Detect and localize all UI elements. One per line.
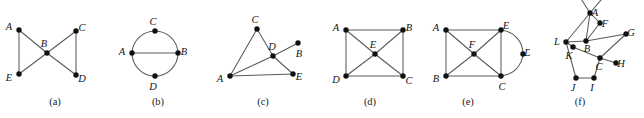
edge-D-B (47, 53, 76, 75)
vertex-c (152, 28, 157, 33)
vertex-a (443, 27, 448, 32)
edge-D-E (346, 54, 375, 76)
vertex-label-l: L (553, 36, 560, 47)
vertex-d (343, 73, 348, 78)
edge-C-B (155, 31, 178, 53)
edge-C-B (47, 31, 76, 53)
vertex-f (471, 51, 476, 56)
vertex-a (227, 73, 232, 78)
panel-b-vertices: ABCD (118, 16, 188, 92)
vertex-label-d: D (267, 41, 276, 52)
vertex-label-b: B (296, 48, 303, 59)
panel-b-caption: (b) (144, 96, 172, 107)
vertex-c (498, 73, 503, 78)
edge-E-B (19, 53, 47, 74)
edge-A-E (230, 74, 293, 76)
edge-C-F (474, 54, 501, 76)
panel-e-edges (446, 30, 523, 76)
panel-c-edges (230, 29, 298, 76)
vertex-a (343, 27, 348, 32)
vertex-label-c: C (149, 16, 157, 27)
edge-B-F (446, 54, 474, 76)
vertex-label-b: B (181, 46, 188, 57)
vertex-label-c: C (405, 75, 413, 86)
vertex-label-g: G (627, 27, 635, 38)
edge-A-D (230, 56, 273, 76)
vertex-e (16, 71, 21, 76)
edge-A-C (230, 29, 257, 76)
vertex-label-c: C (498, 81, 506, 92)
vertex-label-k: K (564, 50, 573, 61)
vertex-label-d: D (148, 81, 157, 92)
graph-figure-row: ABCDE(a)ABCD(b)ABCDE(c)ABCDE(d)ABCDEF(e)… (0, 0, 644, 118)
vertex-label-e: E (369, 39, 377, 50)
vertex-label-f: F (601, 18, 609, 29)
vertex-label-a: A (5, 21, 13, 32)
vertex-label-d: D (331, 74, 340, 85)
vertex-label-b: B (41, 38, 48, 49)
vertex-label-a: A (591, 7, 599, 18)
panel-c-caption: (c) (249, 96, 277, 107)
panel-f-vertices: AFGLBKCHJI (553, 7, 635, 93)
edge-B-E (375, 30, 403, 54)
vertex-label-a: A (216, 73, 224, 84)
vertex-label-d: D (523, 47, 530, 58)
panel-b-edges (132, 31, 178, 76)
edge-D-B (273, 43, 298, 56)
vertex-label-j: J (571, 82, 577, 93)
edge-C-E (375, 54, 403, 76)
vertex-label-e: E (295, 71, 303, 82)
vertex-label-f: F (468, 39, 476, 50)
edge-E-F (474, 30, 501, 54)
vertex-label-c: C (595, 61, 603, 72)
vertex-label-a: A (332, 22, 340, 33)
vertex-e (372, 51, 377, 56)
panel-e-caption: (e) (454, 96, 482, 107)
vertex-label-b: B (584, 43, 591, 54)
vertex-label-c: C (251, 14, 259, 25)
edge-D-E (273, 56, 293, 74)
vertex-label-e: E (502, 20, 510, 31)
vertex-label-a: A (432, 22, 440, 33)
vertex-label-b: B (406, 22, 413, 33)
panel-f-caption: (f) (566, 96, 594, 107)
vertex-c (254, 26, 259, 31)
vertex-d (152, 73, 157, 78)
vertex-k (570, 44, 575, 49)
vertex-b (295, 40, 300, 45)
vertex-label-e: E (5, 72, 13, 83)
vertex-b (44, 50, 49, 55)
vertex-c (597, 55, 602, 60)
vertex-label-d: D (77, 73, 86, 84)
edge-B-D (155, 53, 178, 76)
edge-A-C (132, 31, 155, 53)
vertex-d (270, 53, 275, 58)
vertex-label-i: I (589, 82, 594, 93)
vertex-label-b: B (433, 73, 440, 84)
vertex-label-a: A (118, 46, 126, 57)
vertex-i (591, 75, 596, 80)
panel-d-caption: (d) (356, 96, 384, 107)
vertex-label-c: C (78, 22, 86, 33)
vertex-l (563, 39, 568, 44)
edge-D-C (501, 54, 523, 76)
vertex-a (16, 27, 21, 32)
edge-L-B (566, 41, 586, 42)
panel-a-vertices: ABCDE (5, 21, 87, 84)
edge-D-A (132, 53, 155, 76)
panel-a-caption: (a) (41, 96, 69, 107)
vertex-j (573, 75, 578, 80)
vertex-a (129, 50, 134, 55)
vertex-label-h: H (616, 58, 626, 69)
edge-E-D (501, 30, 523, 54)
vertex-b (443, 73, 448, 78)
